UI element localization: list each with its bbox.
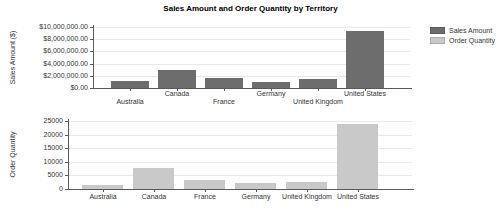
- y-tick-label: 20000: [8, 131, 63, 139]
- bar-germany: [235, 183, 276, 189]
- x-label-united-kingdom: United Kingdom: [278, 98, 358, 105]
- x-tick-mark: [307, 190, 308, 192]
- x-label-united-states: United States: [325, 90, 405, 97]
- legend-label-order-quantity: Order Quantity: [449, 37, 495, 44]
- x-label-canada: Canada: [137, 90, 217, 97]
- x-tick-mark: [103, 190, 104, 192]
- y-tick-label: 25000: [8, 117, 63, 125]
- bar-canada: [158, 70, 196, 88]
- bar-australia: [111, 81, 149, 88]
- bar-australia: [82, 185, 123, 189]
- x-axis-line: [68, 189, 414, 190]
- x-tick-mark: [224, 89, 225, 91]
- x-label-france: France: [184, 98, 264, 105]
- legend-label-sales-amount: Sales Amount: [449, 27, 492, 34]
- chart-title: Sales Amount and Order Quantity by Terri…: [0, 4, 501, 13]
- y-tick-label: 10000: [8, 158, 63, 166]
- y-tick-label: $2,000,000.00: [33, 72, 88, 80]
- x-tick-mark: [256, 190, 257, 192]
- legend-swatch-order-quantity-icon: [430, 37, 445, 44]
- y-axis-line: [68, 119, 69, 190]
- x-label-germany: Germany: [231, 90, 311, 97]
- y-axis-title: Order Quantity: [8, 95, 17, 212]
- bar-united-states: [346, 31, 384, 88]
- legend-item-order-quantity: Order Quantity: [430, 35, 495, 45]
- y-gridline: [93, 27, 410, 28]
- x-tick-mark: [130, 89, 131, 91]
- y-axis-line: [93, 25, 94, 89]
- legend-item-sales-amount: Sales Amount: [430, 25, 495, 35]
- bar-united-kingdom: [299, 79, 337, 88]
- y-tick-label: 0: [8, 185, 63, 193]
- bar-united-states: [337, 124, 378, 189]
- bar-canada: [133, 168, 174, 189]
- y-tick-label: $4,000,000.00: [33, 60, 88, 68]
- x-label-australia: Australia: [90, 98, 170, 105]
- y-tick-label: $6,000,000.00: [33, 47, 88, 55]
- x-tick-mark: [154, 190, 155, 192]
- x-label-united-states: United States: [318, 193, 398, 200]
- y-tick-label: 5000: [8, 171, 63, 179]
- bar-united-kingdom: [286, 182, 327, 189]
- y-tick-label: $10,000,000.00: [33, 23, 88, 31]
- x-tick-mark: [358, 190, 359, 192]
- bar-france: [205, 78, 243, 88]
- y-gridline: [68, 121, 412, 122]
- bar-germany: [252, 82, 290, 88]
- legend-swatch-sales-amount-icon: [430, 27, 445, 34]
- x-tick-mark: [205, 190, 206, 192]
- legend: Sales Amount Order Quantity: [430, 25, 495, 45]
- y-tick-label: 15000: [8, 144, 63, 152]
- y-tick-label: $8,000,000.00: [33, 35, 88, 43]
- bar-france: [184, 180, 225, 189]
- y-tick-label: $0.00: [33, 84, 88, 92]
- x-tick-mark: [318, 89, 319, 91]
- report-canvas: Sales Amount and Order Quantity by Terri…: [0, 0, 501, 211]
